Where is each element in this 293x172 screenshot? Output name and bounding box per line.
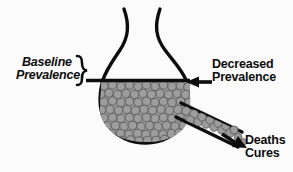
bulb-cell-fill xyxy=(97,80,194,145)
baseline-prevalence-label: Baseline Prevalence xyxy=(22,56,80,82)
baseline-prevalence-line1: Baseline xyxy=(22,55,72,69)
decreased-prevalence-label: Decreased Prevalence xyxy=(212,58,276,84)
outflow-label: Deaths Cures xyxy=(245,134,285,160)
decreased-prevalence-line2: Prevalence xyxy=(212,71,276,84)
outflow-deaths-label: Deaths xyxy=(245,133,285,147)
neck-left-curve xyxy=(103,9,127,80)
diagram-canvas: Baseline Prevalence Decreased Prevalence… xyxy=(0,0,293,172)
outflow-cures-label: Cures xyxy=(245,147,285,160)
baseline-prevalence-line2: Prevalence xyxy=(16,69,80,82)
vessel-neck xyxy=(103,9,186,80)
decreased-prevalence-line1: Decreased xyxy=(212,57,273,71)
neck-right-curve xyxy=(157,9,186,80)
